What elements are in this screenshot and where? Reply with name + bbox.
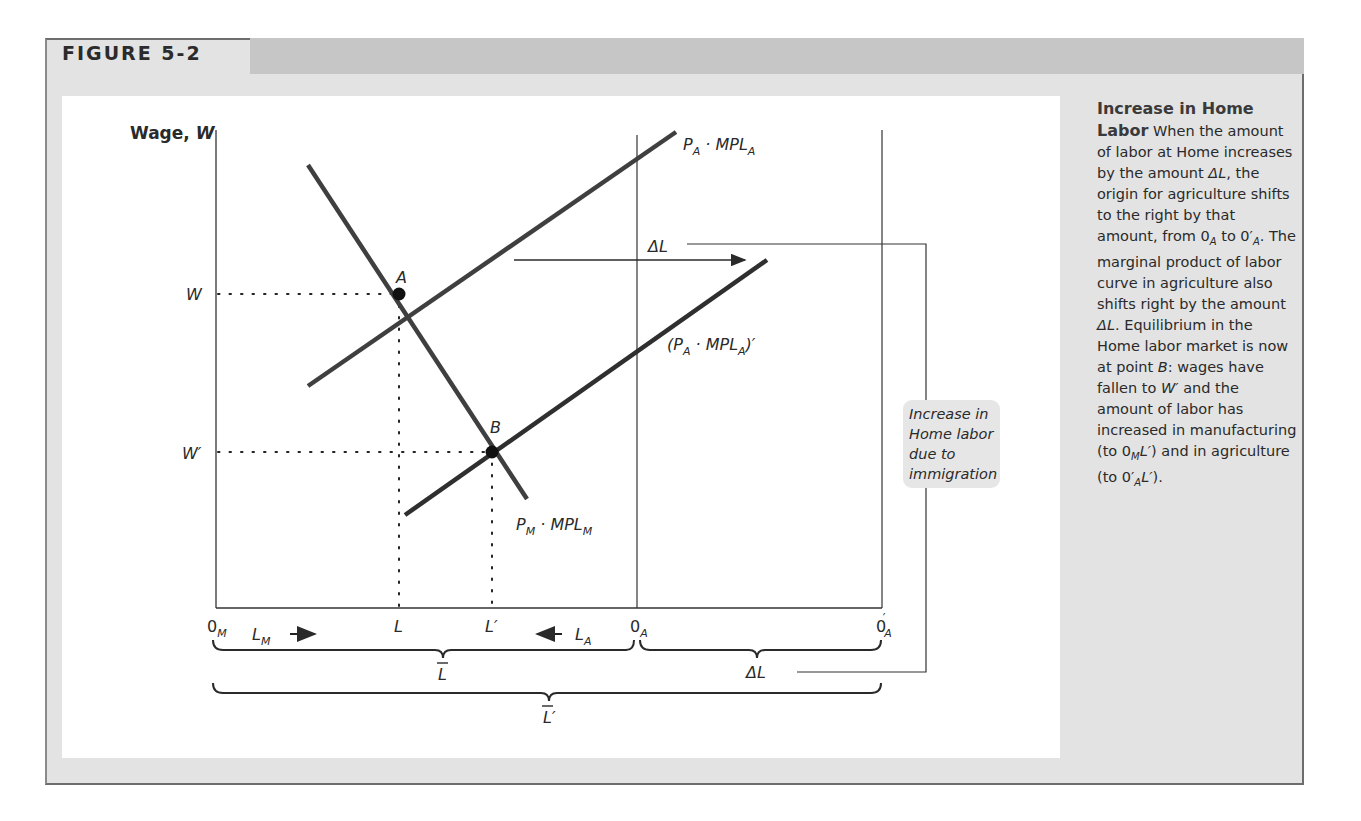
caption-text: When the amount of labor at Home increas… (1097, 123, 1296, 485)
labor-manufacturing-label: LM (252, 625, 271, 648)
delta-l-connector-top (687, 244, 926, 400)
origin-manufacturing-label: 0M (207, 617, 227, 640)
equilibrium-point-b (486, 446, 499, 459)
origin-agriculture-shifted-label: 0A′ (876, 611, 892, 640)
point-b-label: B (490, 418, 501, 437)
curve-pm-mplm-label: PM · MPLM (516, 515, 593, 538)
wage-w-prime-label: W′ (182, 444, 202, 463)
curve-pa-mpla-label: PA · MPLA (683, 135, 755, 158)
total-labor-prime-label: L′ (543, 708, 556, 727)
brace-l-bar (213, 640, 634, 658)
brace-l-bar-prime (213, 683, 881, 701)
figure-caption: Increase in Home Labor When the amount o… (1097, 98, 1297, 493)
delta-l-bottom-label: ΔL (744, 663, 766, 682)
immigration-callout: Increase in Home labor due to immigratio… (903, 400, 1000, 488)
curve-pa-mpla (308, 132, 676, 386)
delta-l-connector-bottom (797, 488, 926, 672)
equilibrium-point-a (393, 288, 406, 301)
curve-pa-mpla-shifted (405, 260, 767, 515)
curve-pa-mpla-shifted-label: (PA · MPLA)′ (667, 335, 756, 358)
total-labor-label: L (438, 665, 447, 684)
labor-agriculture-label: LA (575, 625, 591, 648)
brace-delta-l (640, 640, 881, 658)
delta-l-top-label: ΔL (646, 237, 668, 256)
origin-agriculture-label: 0A (630, 617, 648, 640)
y-axis-label: Wage, W (130, 123, 216, 143)
point-a-label: A (395, 268, 407, 287)
labor-l-prime-label: L′ (485, 617, 498, 636)
labor-l-label: L (394, 617, 403, 636)
wage-w-label: W (186, 285, 203, 304)
